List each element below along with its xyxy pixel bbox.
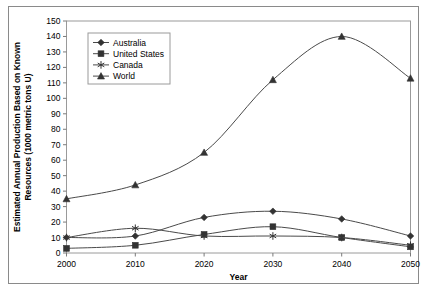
y-tick-label: 130 bbox=[46, 47, 60, 57]
x-axis-ticks: 200020102020203020402050 bbox=[57, 253, 420, 269]
series-line bbox=[67, 211, 411, 238]
y-tick-label: 0 bbox=[56, 248, 61, 258]
x-tick-label: 2040 bbox=[332, 259, 351, 269]
y-tick-label: 50 bbox=[51, 171, 61, 181]
legend-label: Australia bbox=[113, 38, 146, 48]
data-point-diamond-marker bbox=[132, 233, 139, 240]
y-tick-label: 40 bbox=[51, 186, 61, 196]
data-point-square-marker bbox=[64, 245, 70, 251]
legend-item-australia: Australia bbox=[93, 38, 146, 48]
legend-square-marker bbox=[98, 51, 104, 57]
y-tick-label: 150 bbox=[46, 16, 60, 26]
series-canada bbox=[63, 224, 414, 249]
y-tick-label: 80 bbox=[51, 124, 61, 134]
y-tick-label: 10 bbox=[51, 233, 61, 243]
y-tick-label: 90 bbox=[51, 109, 61, 119]
y-tick-label: 60 bbox=[51, 155, 61, 165]
series-line bbox=[67, 228, 411, 245]
chart-legend: AustraliaUnited StatesCanadaWorld bbox=[88, 33, 170, 84]
legend-label: Canada bbox=[113, 60, 143, 70]
y-tick-label: 140 bbox=[46, 31, 60, 41]
x-tick-label: 2030 bbox=[263, 259, 282, 269]
y-tick-label: 70 bbox=[51, 140, 61, 150]
legend-label: United States bbox=[113, 49, 164, 59]
chart-figure: 0102030405060708090100110120130140150 20… bbox=[0, 0, 429, 294]
x-tick-label: 2050 bbox=[401, 259, 420, 269]
data-point-diamond-marker bbox=[270, 208, 277, 215]
y-tick-label: 120 bbox=[46, 62, 60, 72]
line-chart: 0102030405060708090100110120130140150 20… bbox=[0, 0, 429, 294]
y-axis-title-line: Estimated Annual Production Based on Kno… bbox=[12, 42, 22, 232]
legend-item-canada: Canada bbox=[93, 60, 143, 70]
x-axis-title: Year bbox=[230, 272, 249, 282]
data-point-square-marker bbox=[132, 242, 138, 248]
data-point-square-marker bbox=[270, 224, 276, 230]
y-tick-label: 110 bbox=[47, 78, 61, 88]
data-point-diamond-marker bbox=[338, 216, 345, 223]
legend-label: World bbox=[113, 71, 135, 81]
data-point-triangle-marker bbox=[407, 75, 414, 81]
x-tick-label: 2010 bbox=[126, 259, 145, 269]
data-point-diamond-marker bbox=[407, 233, 414, 240]
data-point-diamond-marker bbox=[201, 214, 208, 221]
x-tick-label: 2000 bbox=[57, 259, 76, 269]
y-tick-label: 20 bbox=[51, 217, 61, 227]
y-tick-label: 100 bbox=[46, 93, 60, 103]
x-tick-label: 2020 bbox=[195, 259, 214, 269]
y-axis-title-line: Resources (1000 metric tons U) bbox=[23, 73, 33, 200]
y-axis-ticks: 0102030405060708090100110120130140150 bbox=[46, 16, 66, 258]
y-tick-label: 30 bbox=[51, 202, 61, 212]
